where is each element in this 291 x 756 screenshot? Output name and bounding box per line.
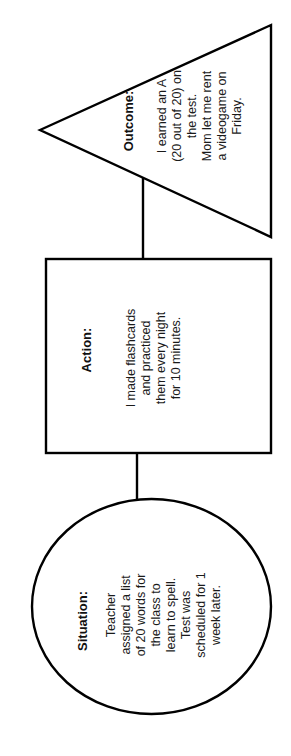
outcome-line: (20 out of 20) on xyxy=(170,70,184,162)
situation-line: learn to spell. xyxy=(164,578,178,652)
action-line: them every night xyxy=(154,311,168,404)
situation-line: assigned a list xyxy=(119,575,133,655)
situation-line: scheduled for 1 xyxy=(194,572,208,658)
action-line: for 10 minutes. xyxy=(169,317,183,400)
action-line: I made flashcards xyxy=(124,309,138,408)
situation-line: of 20 words for xyxy=(134,574,148,657)
action-node: Action: I made flashcards and practiced … xyxy=(46,259,271,453)
outcome-line: I earned an A xyxy=(155,78,169,153)
situation-line: the class to xyxy=(149,583,163,646)
situation-line: week later. xyxy=(209,585,223,646)
flow-diagram: Outcome: I earned an A (20 out of 20) on… xyxy=(0,0,291,756)
action-body: I made flashcards and practiced them eve… xyxy=(124,309,183,408)
situation-node: Situation: Teacher assigned a list of 20… xyxy=(32,499,271,714)
outcome-line: Mom let me rent xyxy=(200,70,214,161)
action-heading: Action: xyxy=(79,328,94,373)
outcome-node: Outcome: I earned an A (20 out of 20) on… xyxy=(40,25,271,237)
outcome-heading: Outcome: xyxy=(121,91,136,152)
situation-line: Test was xyxy=(179,591,193,640)
situation-body: Teacher assigned a list of 20 words for … xyxy=(104,572,223,658)
situation-heading: Situation: xyxy=(75,591,90,651)
situation-line: Teacher xyxy=(104,593,118,637)
outcome-line: a videogame on xyxy=(215,71,229,160)
outcome-line: Friday. xyxy=(230,97,244,134)
action-line: and practiced xyxy=(139,320,153,395)
outcome-line: the test. xyxy=(185,94,199,138)
